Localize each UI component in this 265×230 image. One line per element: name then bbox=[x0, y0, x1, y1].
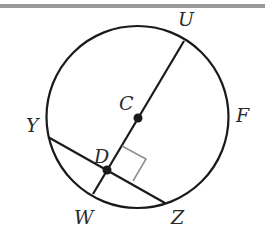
label-Y: Y bbox=[26, 114, 41, 136]
label-F: F bbox=[235, 104, 250, 126]
label-W: W bbox=[74, 206, 95, 228]
right-angle-marker bbox=[122, 146, 146, 181]
label-C: C bbox=[119, 92, 134, 114]
label-D: D bbox=[93, 145, 109, 167]
label-Z: Z bbox=[170, 206, 185, 228]
point-C-dot bbox=[134, 114, 143, 123]
geometry-diagram: U C D Y F W Z bbox=[0, 0, 265, 230]
label-U: U bbox=[178, 8, 195, 30]
